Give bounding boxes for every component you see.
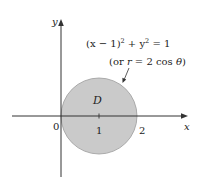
tick-label-2: 2 xyxy=(139,125,145,136)
x-axis-arrow-icon xyxy=(181,113,188,119)
region-label: D xyxy=(92,94,102,107)
x-axis-label: x xyxy=(184,121,190,132)
polar-equation-label: (or r = 2 cos θ) xyxy=(109,56,186,67)
tick-label-1: 1 xyxy=(96,125,102,136)
annotation-pointer xyxy=(124,68,129,80)
diagram-canvas: y x 0 1 2 D (x − 1)2 + y2 = 1 (or r = 2 … xyxy=(0,0,201,191)
origin-label: 0 xyxy=(53,121,59,132)
y-axis-arrow-icon xyxy=(58,19,64,26)
y-axis-label: y xyxy=(51,16,58,27)
polar-region-diagram: y x 0 1 2 D (x − 1)2 + y2 = 1 (or r = 2 … xyxy=(0,0,201,191)
equation-label: (x − 1)2 + y2 = 1 xyxy=(86,37,170,49)
